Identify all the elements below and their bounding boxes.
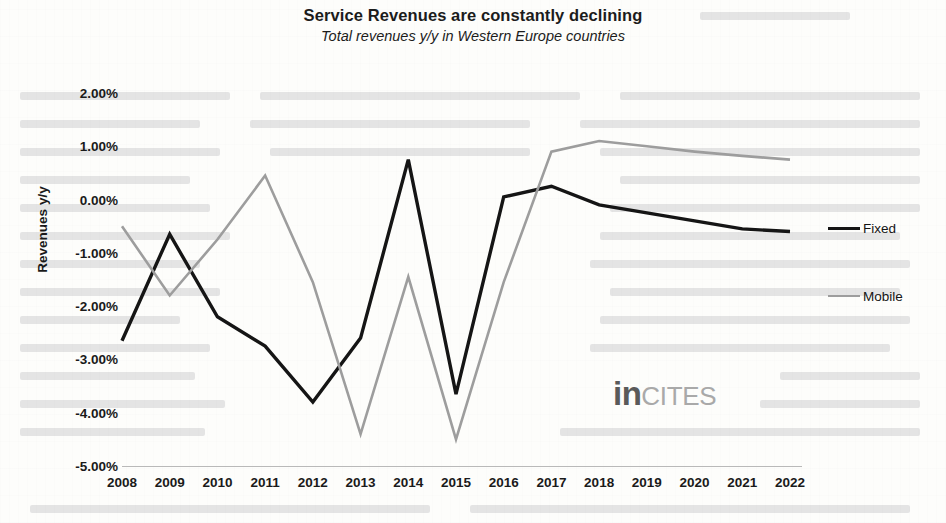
legend-line-swatch-icon bbox=[828, 295, 860, 297]
y-axis-tick-label: -1.00% bbox=[46, 245, 118, 260]
y-axis-tick-labels: 2.00%1.00%0.00%-1.00%-2.00%-3.00%-4.00%-… bbox=[46, 0, 118, 523]
y-axis-tick-label: -2.00% bbox=[46, 299, 118, 314]
series-line-fixed bbox=[122, 160, 790, 402]
x-axis-line bbox=[122, 466, 802, 467]
y-axis-tick-label: -4.00% bbox=[46, 405, 118, 420]
chart-title: Service Revenues are constantly declinin… bbox=[0, 4, 946, 26]
y-axis-tick-label: 1.00% bbox=[46, 139, 118, 154]
x-axis-tick-labels: 2008200920102011201220132014201520162017… bbox=[122, 475, 790, 501]
legend-entry-fixed[interactable]: Fixed bbox=[828, 218, 946, 238]
legend-line-swatch-icon bbox=[828, 227, 860, 230]
watermark-cites-text: CITES bbox=[641, 383, 716, 409]
y-axis-tick-label: -5.00% bbox=[46, 459, 118, 474]
y-axis-tick-label: -3.00% bbox=[46, 352, 118, 367]
incites-watermark-logo: in CITES bbox=[613, 377, 716, 410]
x-axis-tick-label: 2022 bbox=[762, 475, 818, 490]
chart-subtitle: Total revenues y/y in Western Europe cou… bbox=[0, 26, 946, 47]
chart-page: Service Revenues are constantly declinin… bbox=[0, 0, 946, 523]
legend-entry-mobile[interactable]: Mobile bbox=[828, 286, 946, 306]
y-axis-tick-label: 0.00% bbox=[46, 192, 118, 207]
chart-legend: FixedMobile bbox=[828, 218, 946, 354]
legend-label: Fixed bbox=[863, 221, 896, 236]
legend-label: Mobile bbox=[863, 289, 903, 304]
watermark-in-text: in bbox=[613, 377, 641, 410]
chart-title-block: Service Revenues are constantly declinin… bbox=[0, 4, 946, 47]
y-axis-tick-label: 2.00% bbox=[46, 86, 118, 101]
